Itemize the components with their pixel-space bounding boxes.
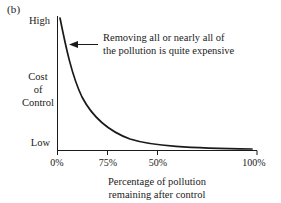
x-axis-title-line-1: Percentage of pollution [108, 176, 207, 187]
x-axis-title-line-2: remaining after control [109, 189, 206, 200]
x-tick-label-2: 50% [149, 157, 167, 168]
y-axis-title-line-2: of [34, 84, 43, 95]
x-tick-label-1: 75% [99, 157, 117, 168]
y-axis-high-label: High [29, 15, 51, 26]
y-axis-low-label: Low [31, 137, 51, 148]
annotation-line-2: the pollution is quite expensive [103, 45, 235, 56]
y-axis-title-line-1: Cost [28, 71, 47, 82]
chart-canvas: High Low Cost of Control 0% 75% 50% 100%… [0, 0, 281, 203]
x-tick-label-3: 100% [242, 157, 265, 168]
x-tick-marks [58, 151, 258, 156]
figure-panel-b: (b) High Low Cost of Control 0% 75% 50% [0, 0, 281, 203]
annotation-line-1: Removing all or nearly all of [103, 32, 225, 43]
y-axis-title-line-3: Control [22, 97, 54, 108]
callout-arrow-icon [69, 41, 98, 48]
x-tick-label-0: 0% [50, 157, 63, 168]
